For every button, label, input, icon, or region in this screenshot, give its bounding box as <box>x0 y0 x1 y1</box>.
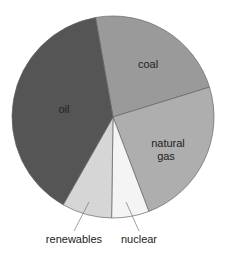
label-coal: coal <box>138 58 158 70</box>
label-natural-gas-line2: gas <box>157 150 175 162</box>
label-nuclear: nuclear <box>121 233 157 245</box>
pie-slices <box>12 16 214 218</box>
label-oil: oil <box>58 103 69 115</box>
label-renewables: renewables <box>46 233 103 245</box>
label-natural-gas-line1: natural <box>151 137 185 149</box>
pie-chart: coal natural gas oil renewables nuclear <box>0 0 226 254</box>
